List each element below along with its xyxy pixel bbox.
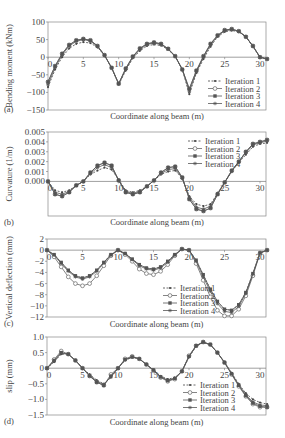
legend-item: Iteration 4 [225,99,261,109]
y-tick-label: −150 [26,105,45,115]
y-tick-label: 50 [36,35,46,45]
series-2 [45,340,269,409]
y-tick-label: −1.0 [28,394,45,404]
y-axis-label: Curvature (1/m) [4,146,14,201]
panel-label: (b) [4,217,14,227]
y-tick-label: 100 [32,17,46,27]
legend-item: Iteration 4 [180,306,216,316]
y-tick-label: 0 [41,52,46,62]
x-tick-label: 15 [150,59,160,69]
y-tick-label: −1.5 [28,410,45,420]
chart-panel-a: 100500−50−100−150051015202530Bending mom… [4,17,269,121]
chart-panel-d: 1.00.50−0.5−1.0−1.5051015202530slip (mm)… [4,332,269,427]
x-axis-label: Coordinate along beam (m) [110,417,204,427]
legend: Iteration 1Iteration 2Iteration 3Iterati… [163,283,216,316]
y-tick-label: −6 [34,279,44,289]
y-tick-label: −0.5 [28,379,45,389]
x-tick-label: 15 [150,183,160,193]
x-tick-label: 5 [80,252,85,262]
y-tick-label: −4 [34,267,44,277]
y-tick-label: 0 [40,245,45,255]
x-tick-label: 10 [114,183,124,193]
y-tick-label: 0.003 [25,147,46,157]
x-tick-label: 0 [47,370,52,380]
x-tick-label: 15 [149,252,159,262]
x-tick-label: 10 [114,252,124,262]
x-axis-label: Coordinate along beam (m) [110,111,204,121]
y-tick-label: 0.005 [25,127,46,137]
chart-panel-c: 20−2−4−6−8−10−12051015202530Vertical def… [4,234,269,329]
panel-label: (c) [4,318,14,328]
x-tick-label: 30 [256,59,266,69]
y-tick-label: −8 [34,290,44,300]
x-axis-label: Coordinate along beam (m) [110,217,204,227]
y-axis-label: slip (mm) [4,359,14,392]
y-tick-label: 2 [40,234,45,244]
x-tick-label: 30 [256,183,266,193]
x-tick-label: 25 [220,370,230,380]
y-tick-label: 0.004 [25,137,46,147]
panel-label: (a) [4,104,14,114]
panel-label: (d) [4,416,14,426]
y-tick-label: 0 [40,363,45,373]
x-tick-label: 10 [114,59,124,69]
x-tick-label: 5 [81,183,86,193]
x-tick-label: 5 [80,370,85,380]
y-tick-label: 0.5 [33,348,45,358]
y-tick-label: −12 [30,312,44,322]
x-tick-label: 20 [185,370,195,380]
legend: Iteration 1Iteration 2Iteration 3Iterati… [208,76,261,109]
x-tick-label: 25 [220,252,230,262]
x-tick-label: 25 [220,183,230,193]
y-axis-label: Vertical deflection (mm) [4,236,14,320]
y-tick-label: −2 [34,256,44,266]
y-axis-label: Bending moment (kNm) [4,24,14,108]
y-tick-label: −100 [26,87,45,97]
legend-item: Iteration 4 [205,159,241,169]
chart-panel-b: 0.0050.0040.0030.0020.0010.0000510152025… [4,127,269,227]
x-tick-label: 20 [185,59,195,69]
x-axis-label: Coordinate along beam (m) [110,319,204,329]
x-tick-label: 5 [81,59,86,69]
y-tick-label: −10 [30,301,45,311]
y-tick-label: 1.0 [33,332,45,342]
chart-panels: 100500−50−100−150051015202530Bending mom… [4,17,269,427]
legend-item: Iteration 4 [200,403,236,413]
x-tick-label: 25 [220,59,230,69]
y-tick-label: −50 [31,70,46,80]
figure: 100500−50−100−150051015202530Bending mom… [0,0,285,438]
y-tick-label: 0.000 [25,176,46,186]
x-tick-label: 30 [256,370,266,380]
legend: Iteration 1Iteration 2Iteration 3Iterati… [183,380,236,413]
y-tick-label: 0.001 [25,167,45,177]
legend: Iteration 1Iteration 2Iteration 3Iterati… [188,136,241,169]
x-tick-label: 0 [48,59,53,69]
y-tick-label: 0.002 [25,157,45,167]
